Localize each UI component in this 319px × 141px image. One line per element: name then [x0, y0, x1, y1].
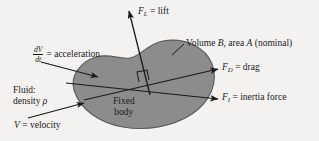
drag-subscript: D — [228, 66, 233, 73]
inertia-text: inertia force — [240, 92, 286, 102]
fluid-label: Fluid: density ρ — [13, 85, 47, 106]
acceleration-tail: = acceleration — [43, 49, 100, 60]
acceleration-numerator: dV — [33, 46, 43, 54]
density-symbol: ρ — [43, 96, 48, 106]
acceleration-equals: = — [46, 49, 51, 59]
fixed-body-label: Fixed body — [113, 96, 135, 117]
velocity-text: velocity — [30, 120, 61, 130]
fixed-body-line1: Fixed — [113, 96, 135, 107]
drag-text: drag — [243, 62, 260, 72]
velocity-symbol: V — [14, 120, 20, 130]
lift-equals: = — [150, 6, 155, 16]
volume-prefix: Volume — [186, 38, 218, 48]
acceleration-denominator: dt — [33, 55, 43, 63]
fluid-line2: density ρ — [13, 96, 47, 107]
lift-text: lift — [158, 6, 169, 16]
inertia-force-label: FI = inertia force — [222, 92, 286, 103]
inertia-subscript: I — [228, 96, 230, 103]
lift-subscript: L — [144, 10, 148, 17]
force-diagram-figure: FL = lift Volume B, area A (nominal) FD … — [0, 0, 319, 141]
drag-equals: = — [235, 62, 240, 72]
density-prefix: density — [13, 96, 43, 106]
acceleration-label: dV dt = acceleration — [33, 46, 100, 63]
fixed-body-line2: body — [113, 107, 135, 118]
drag-force-label: FD = drag — [222, 62, 260, 73]
acceleration-text: acceleration — [54, 49, 100, 59]
velocity-equals: = — [22, 120, 27, 130]
volume-area-label: Volume B, area A (nominal) — [186, 38, 292, 49]
fluid-line1: Fluid: — [13, 85, 47, 96]
volume-suffix: (nominal) — [252, 38, 292, 48]
lift-force-label: FL = lift — [138, 6, 169, 17]
volume-middle: , area — [224, 38, 247, 48]
inertia-equals: = — [232, 92, 237, 102]
acceleration-fraction: dV dt — [33, 46, 43, 63]
velocity-label: V = velocity — [14, 120, 61, 131]
